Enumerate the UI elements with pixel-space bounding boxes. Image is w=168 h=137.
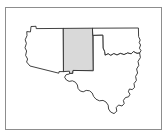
southwest-states-map [0,0,168,137]
state-arizona[interactable] [25,26,64,73]
map-figure: United States Southwest New Mexico Map o… [0,0,168,137]
state-new-mexico-highlighted[interactable] [64,28,94,73]
